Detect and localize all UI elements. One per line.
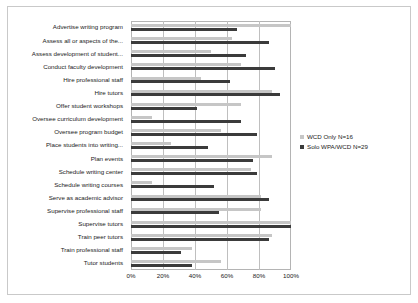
- bar-row: [131, 152, 291, 165]
- bar: [131, 168, 251, 171]
- bar: [131, 159, 253, 162]
- y-axis-label: Oversee curriculum development: [8, 113, 127, 126]
- bar: [131, 264, 192, 267]
- x-axis-tick: 100%: [283, 272, 299, 279]
- legend-swatch-icon: [300, 135, 304, 139]
- bar: [131, 24, 291, 27]
- y-axis-label: Serve as academic advisor: [8, 191, 127, 204]
- x-axis-tick: 80%: [253, 272, 265, 279]
- bar: [131, 251, 181, 254]
- bar: [131, 37, 232, 40]
- bar: [131, 155, 272, 158]
- y-axis-label: Conduct faculty development: [8, 60, 127, 73]
- bar: [131, 129, 221, 132]
- y-axis-label: Oversee program budget: [8, 126, 127, 139]
- bar: [131, 93, 280, 96]
- bar: [131, 225, 291, 228]
- bar: [131, 90, 272, 93]
- bar: [131, 107, 197, 110]
- x-axis-tick: 40%: [189, 272, 201, 279]
- bar: [131, 142, 171, 145]
- bar-rows: [131, 21, 291, 270]
- bar: [131, 146, 208, 149]
- y-axis-label: Supervise professional staff: [8, 205, 127, 218]
- bar: [131, 67, 275, 70]
- bar: [131, 234, 272, 237]
- y-axis-label: Schedule writing courses: [8, 178, 127, 191]
- bar: [131, 54, 246, 57]
- bar: [131, 208, 261, 211]
- y-axis-label: Assess all or aspects of the...: [8, 34, 127, 47]
- y-axis-label: Assess development of student...: [8, 47, 127, 60]
- chart-figure: Advertise writing programAssess all or a…: [0, 0, 418, 303]
- bar-row: [131, 178, 291, 191]
- bar: [131, 195, 261, 198]
- legend-entry: Solo WPA/WCD N=29: [300, 143, 404, 150]
- bar-row: [131, 244, 291, 257]
- bar-row: [131, 21, 291, 34]
- y-axis-label: Schedule writing center: [8, 165, 127, 178]
- bar: [131, 185, 214, 188]
- bar-row: [131, 139, 291, 152]
- x-axis-tick: 20%: [157, 272, 169, 279]
- bar: [131, 80, 230, 83]
- bar: [131, 103, 241, 106]
- bar: [131, 172, 257, 175]
- chart-legend: WCD Only N=16Solo WPA/WCD N=29: [300, 133, 404, 153]
- legend-label: Solo WPA/WCD N=29: [307, 143, 368, 150]
- bar-row: [131, 218, 291, 231]
- bar-row: [131, 205, 291, 218]
- bar-row: [131, 34, 291, 47]
- bar: [131, 211, 219, 214]
- bar: [131, 247, 192, 250]
- bar: [131, 63, 241, 66]
- bar-row: [131, 126, 291, 139]
- bar-row: [131, 100, 291, 113]
- legend-label: WCD Only N=16: [307, 133, 353, 140]
- y-axis-label: Hire tutors: [8, 87, 127, 100]
- bar: [131, 133, 257, 136]
- bar: [131, 50, 211, 53]
- bar-row: [131, 113, 291, 126]
- y-axis-category-labels: Advertise writing programAssess all or a…: [8, 21, 127, 270]
- y-axis-label: Tutor students: [8, 257, 127, 270]
- y-axis-label: Train peer tutors: [8, 231, 127, 244]
- bar-row: [131, 257, 291, 270]
- bar: [131, 120, 241, 123]
- y-axis-label: Offer student workshops: [8, 100, 127, 113]
- plot-area-wrapper: [131, 21, 291, 270]
- y-axis-label: Hire professional staff: [8, 73, 127, 86]
- bar: [131, 77, 201, 80]
- bar: [131, 41, 269, 44]
- bar: [131, 28, 237, 31]
- y-axis-label: Plan events: [8, 152, 127, 165]
- bar-row: [131, 191, 291, 204]
- y-axis-label: Advertise writing program: [8, 21, 127, 34]
- x-axis-tick: 60%: [221, 272, 233, 279]
- bar-row: [131, 47, 291, 60]
- bar-row: [131, 60, 291, 73]
- bar-row: [131, 87, 291, 100]
- bar-row: [131, 73, 291, 86]
- x-axis-tick-labels: 0%20%40%60%80%100%: [131, 272, 291, 284]
- legend-entry: WCD Only N=16: [300, 133, 404, 140]
- y-axis-label: Train professional staff: [8, 244, 127, 257]
- x-axis-tick: 0%: [127, 272, 136, 279]
- y-axis-label: Supervise tutors: [8, 218, 127, 231]
- bar: [131, 221, 291, 224]
- bar: [131, 260, 221, 263]
- bar-row: [131, 165, 291, 178]
- legend-swatch-icon: [300, 145, 304, 149]
- bar: [131, 238, 269, 241]
- bar: [131, 116, 152, 119]
- bar: [131, 181, 152, 184]
- y-axis-label: Place students into writing...: [8, 139, 127, 152]
- bar-row: [131, 231, 291, 244]
- bar: [131, 198, 269, 201]
